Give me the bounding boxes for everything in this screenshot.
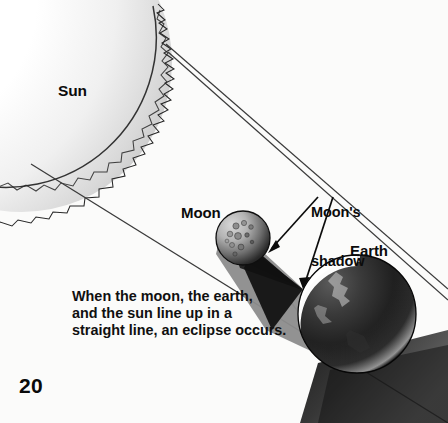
caption-text: When the moon, the earth, and the sun li… [72,288,286,339]
page-canvas: Sun Moon Earth Moon's shadow When the mo… [0,0,448,423]
label-moons-shadow-line2: shadow [311,253,364,269]
label-moon: Moon [181,205,221,221]
label-sun: Sun [58,83,87,99]
caption-line-2: and the sun line up in a [72,305,286,322]
label-moons-shadow: Moon's shadow [311,172,364,302]
eclipse-diagram [0,0,448,423]
label-moons-shadow-line1: Moon's [311,204,364,220]
caption-line-3: straight line, an eclipse occurs. [72,322,286,339]
caption-line-1: When the moon, the earth, [72,288,286,305]
sun-ray-upper [166,44,448,289]
page-number: 20 [19,374,43,398]
sun-body [0,0,172,212]
moon-body [216,211,270,265]
sun-ray-upper-2 [168,52,448,300]
